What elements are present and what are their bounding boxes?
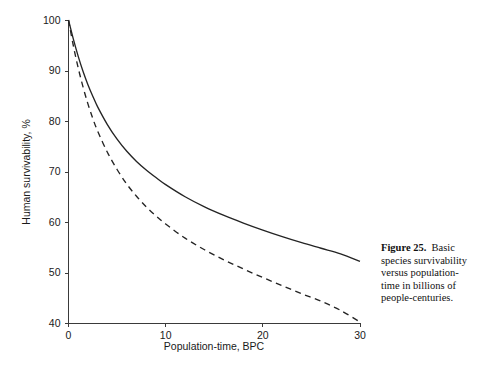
y-tick-label: 90 — [49, 64, 61, 76]
y-tick-label: 40 — [49, 317, 61, 329]
chart-svg: 405060708090100 0102030 Population-time,… — [0, 0, 375, 367]
figure-caption: Figure 25. Basic species survivability v… — [381, 242, 477, 305]
x-axis-title: Population-time, BPC — [164, 340, 265, 352]
series-dashed-line — [69, 20, 361, 322]
y-tick-label: 60 — [49, 216, 61, 228]
y-tick-label-group: 405060708090100 — [43, 14, 61, 329]
y-tick-label: 80 — [49, 115, 61, 127]
y-tick-label: 100 — [43, 14, 61, 26]
y-tick-label: 70 — [49, 165, 61, 177]
y-axis-title: Human survivability, % — [20, 119, 32, 224]
y-tick-label: 50 — [49, 266, 61, 278]
x-tick-label: 30 — [354, 329, 366, 341]
chart-plot-area: 405060708090100 0102030 Population-time,… — [0, 0, 375, 367]
series-solid-line — [69, 20, 361, 261]
figure-caption-label: Figure 25. — [381, 242, 426, 253]
x-tick-label: 0 — [66, 329, 72, 341]
figure-container: 405060708090100 0102030 Population-time,… — [0, 0, 480, 367]
y-tick-group — [65, 21, 69, 324]
